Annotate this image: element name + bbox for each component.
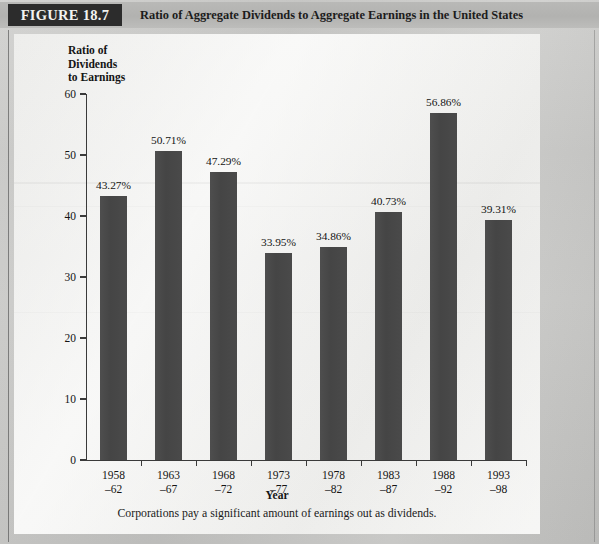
x-tick xyxy=(361,460,362,466)
y-tick xyxy=(80,398,86,399)
page-left-rule xyxy=(8,30,9,542)
y-tick-label: 0 xyxy=(70,454,76,466)
x-tick xyxy=(251,460,252,466)
bar xyxy=(485,220,512,460)
y-tick-label: 10 xyxy=(65,393,77,405)
bar-value-label: 47.29% xyxy=(206,155,241,167)
figure-title: Ratio of Aggregate Dividends to Aggregat… xyxy=(140,5,590,25)
bar xyxy=(375,212,402,460)
y-tick xyxy=(80,459,86,460)
bar xyxy=(320,247,347,460)
bar xyxy=(430,113,457,460)
bar xyxy=(265,253,292,460)
plot-area: 0102030405060 43.27%50.71%47.29%33.95%34… xyxy=(86,94,526,460)
bar-value-label: 56.86% xyxy=(426,96,461,108)
bar xyxy=(100,196,127,460)
y-tick-label: 40 xyxy=(65,210,77,222)
chart-panel: Ratio of Dividends to Earnings 010203040… xyxy=(14,34,540,534)
figure-caption: Corporations pay a significant amount of… xyxy=(14,506,540,521)
y-tick xyxy=(80,276,86,277)
bar xyxy=(155,151,182,460)
x-tick xyxy=(196,460,197,466)
page-right-rule xyxy=(594,30,595,542)
y-tick xyxy=(80,154,86,155)
y-tick-label: 20 xyxy=(65,332,77,344)
bar-value-label: 34.86% xyxy=(316,230,351,242)
y-tick xyxy=(80,215,86,216)
y-axis-line xyxy=(86,94,87,460)
bar xyxy=(210,172,237,460)
bar-value-label: 50.71% xyxy=(151,134,186,146)
y-tick xyxy=(80,93,86,94)
y-tick-label: 30 xyxy=(65,271,77,283)
x-tick xyxy=(416,460,417,466)
y-tick xyxy=(80,337,86,338)
bar-value-label: 39.31% xyxy=(481,203,516,215)
x-tick xyxy=(141,460,142,466)
x-tick xyxy=(471,460,472,466)
figure-number-badge: FIGURE 18.7 xyxy=(8,4,122,26)
bar-value-label: 43.27% xyxy=(96,179,131,191)
bar-value-label: 33.95% xyxy=(261,236,296,248)
x-tick xyxy=(306,460,307,466)
y-tick-label: 60 xyxy=(65,88,77,100)
bar-value-label: 40.73% xyxy=(371,195,406,207)
y-axis-title: Ratio of Dividends to Earnings xyxy=(68,44,125,85)
x-axis-title: Year xyxy=(14,489,540,501)
x-tick xyxy=(526,460,527,466)
y-tick-label: 50 xyxy=(65,149,77,161)
